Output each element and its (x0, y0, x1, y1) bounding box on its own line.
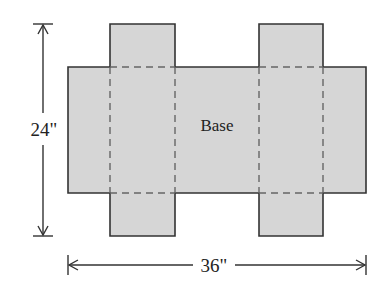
width-dimension-label: 36" (201, 255, 228, 276)
box-net-diagram: Base 24" 36" (0, 0, 382, 287)
base-label: Base (200, 116, 233, 135)
height-dimension-label: 24" (31, 119, 58, 140)
